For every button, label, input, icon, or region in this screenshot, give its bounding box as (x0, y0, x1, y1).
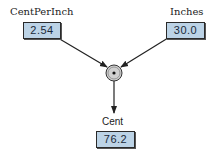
centperinch-value-box: 2.54 (23, 22, 61, 39)
centperinch-label: CentPerInch (10, 6, 73, 17)
edge-centperinch-to-operator (58, 38, 107, 67)
cent-value-box: 76.2 (96, 131, 135, 148)
dataflow-diagram: CentPerInch 2.54 Inches 30.0 Cent 76.2 (0, 0, 213, 154)
inches-label: Inches (170, 6, 203, 17)
edge-inches-to-operator (121, 38, 168, 67)
multiply-operator-node (106, 65, 122, 81)
inches-value-box: 30.0 (166, 22, 205, 39)
cent-label: Cent (102, 116, 123, 127)
